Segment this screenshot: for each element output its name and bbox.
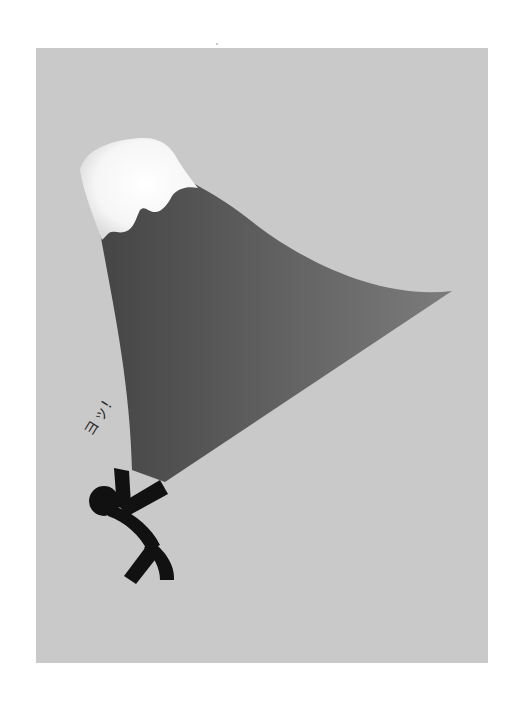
illustration-artwork xyxy=(0,0,522,704)
stick-figure xyxy=(89,468,174,584)
figure-leg-left xyxy=(124,548,158,584)
mountain-shape xyxy=(100,180,452,482)
